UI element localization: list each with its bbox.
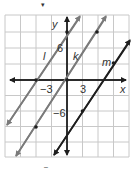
x-axis-label: x <box>119 83 126 95</box>
tick-label-y-6: 6 <box>57 42 63 54</box>
y-axis-label: y <box>51 18 59 30</box>
point-m-upper <box>112 61 116 65</box>
coordinate-plane: ▾ – <box>0 0 139 169</box>
point-l-x-intercept <box>34 78 38 82</box>
point-k-origin <box>65 78 69 82</box>
bottom-mark: – <box>44 163 48 169</box>
top-mark: ▾ <box>41 1 45 8</box>
point-m-lower <box>81 109 85 113</box>
line-k <box>16 16 106 156</box>
tick-label-y-neg6: −6 <box>53 107 66 119</box>
line-l-label: l <box>43 50 46 62</box>
line-m-label: m <box>102 56 111 68</box>
point-l-y-intercept <box>65 30 69 34</box>
point-k-upper <box>95 30 99 34</box>
point-k-lower <box>34 125 38 129</box>
line-k-label: k <box>73 50 79 62</box>
tick-label-x-3: 3 <box>80 83 86 95</box>
tick-label-x-neg3: −3 <box>40 83 53 95</box>
line-m <box>54 40 130 155</box>
